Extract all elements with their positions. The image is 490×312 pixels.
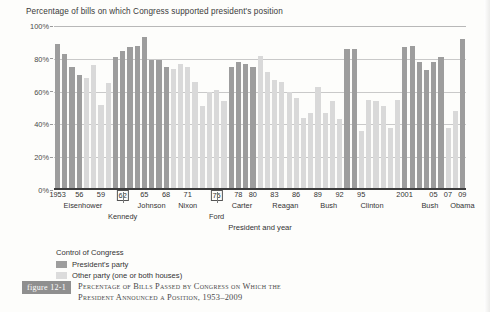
president-label-bush-2005: Bush	[421, 201, 438, 210]
bar-slot-1978	[235, 26, 242, 190]
president-label-eisenhower-1957: Eisenhower	[64, 201, 103, 210]
bar-slot-1992	[336, 26, 343, 190]
bar-slot-1987	[300, 26, 307, 190]
page-edge-shading	[484, 0, 490, 312]
bar-1959	[98, 105, 103, 190]
legend-label-other: Other party (one or both houses)	[72, 271, 182, 280]
bar-slot-2001	[401, 26, 408, 190]
y-tick-20: 20%	[34, 153, 49, 162]
plot-area: 0%20%40%60%80%100%	[24, 26, 466, 190]
legend-item-other: Other party (one or both houses)	[56, 271, 182, 280]
bar-1994	[352, 49, 357, 190]
bar-1996	[366, 100, 371, 190]
bar-slot-1968	[163, 26, 170, 190]
figure-number-tag: figure 12-1	[22, 281, 71, 294]
bar-slot-1966	[148, 26, 155, 190]
legend-item-pres: President's party	[56, 260, 182, 269]
bar-slot-1999	[387, 26, 394, 190]
bar-slot-2009	[459, 26, 466, 190]
caption-text: Percentage of Bills Passed by Congress o…	[78, 281, 281, 303]
bar-1967	[156, 60, 161, 190]
bar-2002	[410, 46, 415, 190]
x-tick-label-07: 07	[444, 190, 452, 199]
bar-1963	[127, 47, 132, 190]
bar-1999	[388, 128, 393, 190]
bar-2004	[424, 70, 429, 190]
legend-swatch-pres-icon	[56, 261, 67, 268]
bar-slot-1976	[220, 26, 227, 190]
bar-1971	[185, 67, 190, 190]
bar-1965	[142, 37, 147, 190]
y-tick-mark	[50, 124, 53, 125]
president-label-clinton-1997: Clinton	[361, 201, 384, 210]
bar-slot-2008	[452, 26, 459, 190]
bar-1997	[373, 101, 378, 190]
bar-1981	[258, 56, 263, 190]
bar-slot-1959	[97, 26, 104, 190]
bar-slot-1963	[126, 26, 133, 190]
figure-page: Percentage of bills on which Congress su…	[0, 0, 490, 312]
bar-slot-1954	[61, 26, 68, 190]
x-tick-label-86: 86	[292, 190, 300, 199]
bar-slot-1993	[343, 26, 350, 190]
bar-slot-1982	[264, 26, 271, 190]
bar-1962	[120, 51, 125, 190]
bar-1990	[323, 113, 328, 190]
y-tick-mark	[50, 157, 53, 158]
president-label-obama-2009: Obama	[450, 201, 474, 210]
bar-slot-2000	[394, 26, 401, 190]
bar-1958	[91, 65, 96, 190]
bar-slot-1998	[380, 26, 387, 190]
x-axis-title: President and year	[54, 223, 466, 232]
bar-2003	[417, 62, 422, 190]
bar-1968	[164, 67, 169, 190]
y-tick-40: 40%	[34, 120, 49, 129]
president-label-kennedy-1962: Kennedy	[108, 212, 137, 221]
bar-slot-1962	[119, 26, 126, 190]
x-tick-label-95: 95	[357, 190, 365, 199]
x-tick-label-89: 89	[314, 190, 322, 199]
bar-slot-2006	[437, 26, 444, 190]
bar-slot-1957	[83, 26, 90, 190]
bar-1979	[243, 64, 248, 190]
bar-slot-1979	[242, 26, 249, 190]
bar-slot-1983	[271, 26, 278, 190]
x-tick-label-59: 59	[97, 190, 105, 199]
bar-slot-1965	[141, 26, 148, 190]
plot-canvas	[54, 26, 466, 190]
bar-2008	[453, 111, 458, 190]
bar-1982	[265, 72, 270, 190]
bar-slot-1984	[278, 26, 285, 190]
bar-1961	[113, 57, 118, 190]
bar-slot-1967	[155, 26, 162, 190]
x-tick-label-56: 56	[75, 190, 83, 199]
bar-slot-1977	[228, 26, 235, 190]
legend-label-pres: President's party	[72, 260, 128, 269]
bar-slot-2004	[423, 26, 430, 190]
y-tick-mark	[50, 26, 53, 27]
x-tick-label-1953: 1953	[49, 190, 65, 199]
president-label-nixon-1971: Nixon	[178, 201, 197, 210]
x-tick-label-68: 68	[162, 190, 170, 199]
chart-title: Percentage of bills on which Congress su…	[26, 7, 283, 16]
bar-1960	[106, 83, 111, 190]
bar-1977	[229, 67, 234, 190]
bar-slot-1990	[322, 26, 329, 190]
bar-1969	[171, 69, 176, 190]
y-tick-mark	[50, 58, 53, 59]
bar-1989	[315, 87, 320, 190]
bar-1998	[381, 106, 386, 190]
y-tick-mark	[50, 91, 53, 92]
bar-1986	[294, 98, 299, 190]
bar-slot-1956	[76, 26, 83, 190]
y-tick-80: 80%	[34, 54, 49, 63]
y-tick-0: 0%	[38, 186, 49, 195]
bar-1974	[207, 92, 212, 190]
bar-1988	[308, 113, 313, 190]
x-tick-label-09: 09	[458, 190, 466, 199]
caption-line-1: Percentage of Bills Passed by Congress o…	[78, 281, 281, 292]
bar-1993	[344, 49, 349, 190]
caption-line-2: President Announced a Position, 1953–200…	[78, 292, 281, 303]
bar-slot-1994	[351, 26, 358, 190]
x-tick-label-2001: 2001	[396, 190, 412, 199]
